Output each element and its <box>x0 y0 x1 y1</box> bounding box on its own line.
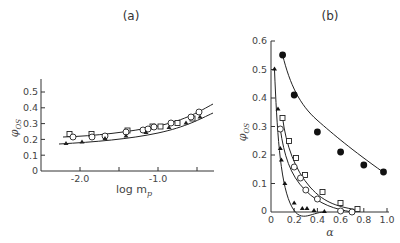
svg-text:0.8: 0.8 <box>356 214 371 225</box>
svg-text:0.4: 0.4 <box>252 92 267 103</box>
panel-b-y-label: φOS <box>236 123 251 141</box>
svg-text:0: 0 <box>268 214 274 225</box>
panel-a-y-tick-labels: 0 0.1 0.2 0.3 0.4 0.5 <box>23 86 38 176</box>
panel-a-y-ticks <box>41 92 45 155</box>
panel-a: (a) 0 0.1 0.2 0.3 0.4 0.5 -2.0 <box>8 9 214 198</box>
svg-text:-2.0: -2.0 <box>71 173 90 184</box>
svg-text:1.0: 1.0 <box>379 214 394 225</box>
panel-a-x-label: log mp <box>116 183 152 198</box>
svg-text:0.5: 0.5 <box>23 86 38 97</box>
svg-text:0.2: 0.2 <box>23 134 38 145</box>
svg-text:-1.0: -1.0 <box>149 173 168 184</box>
svg-text:0: 0 <box>261 205 267 216</box>
svg-text:0.6: 0.6 <box>252 35 267 46</box>
panel-b-x-tick-labels: 0 0.2 0.4 0.6 0.8 1.0 <box>268 214 395 225</box>
panel-b-y-tick-labels: 0 0.1 0.2 0.3 0.4 0.5 0.6 <box>252 35 267 216</box>
panel-a-y-label: φOS <box>8 119 23 137</box>
svg-text:0.1: 0.1 <box>252 178 267 189</box>
svg-text:0.4: 0.4 <box>23 102 38 113</box>
svg-text:0.3: 0.3 <box>23 118 38 129</box>
panel-b: (b) 0 0.1 0.2 0.3 0.4 0.5 0.6 <box>236 9 395 239</box>
panel-b-title: (b) <box>322 9 339 23</box>
panel-b-x-label: α <box>326 226 334 239</box>
svg-text:0.4: 0.4 <box>310 214 325 225</box>
panel-a-x-ticks <box>80 167 197 171</box>
panel-a-open-squares <box>67 116 195 137</box>
panel-a-open-circles <box>70 109 202 140</box>
figure-canvas: (a) 0 0.1 0.2 0.3 0.4 0.5 -2.0 <box>0 0 400 243</box>
svg-text:0.1: 0.1 <box>23 150 38 161</box>
panel-b-filled-triangles <box>272 67 327 214</box>
panel-b-y-ticks <box>271 41 275 184</box>
svg-text:0.6: 0.6 <box>333 214 348 225</box>
svg-text:0: 0 <box>32 165 38 176</box>
panel-b-filled-circle-curve <box>283 55 383 172</box>
panel-a-title: (a) <box>123 9 140 23</box>
svg-text:0.5: 0.5 <box>252 64 267 75</box>
svg-text:0.2: 0.2 <box>252 149 267 160</box>
svg-text:0.3: 0.3 <box>252 121 267 132</box>
